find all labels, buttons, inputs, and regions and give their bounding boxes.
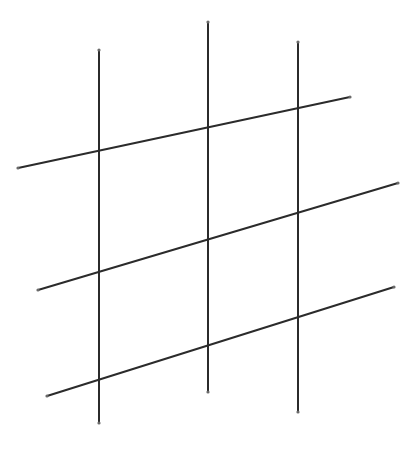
slanted-line-1 bbox=[18, 97, 350, 168]
line-endpoint bbox=[36, 288, 39, 291]
line-endpoint bbox=[45, 394, 48, 397]
line-endpoint bbox=[392, 285, 395, 288]
line-endpoint bbox=[348, 95, 351, 98]
line-grid-diagram bbox=[0, 0, 419, 454]
line-endpoint bbox=[296, 40, 299, 43]
line-endpoint bbox=[97, 421, 100, 424]
line-endpoint bbox=[97, 48, 100, 51]
line-endpoint bbox=[206, 20, 209, 23]
line-endpoint bbox=[16, 166, 19, 169]
line-endpoint bbox=[296, 410, 299, 413]
line-endpoint bbox=[206, 390, 209, 393]
slanted-line-2 bbox=[38, 183, 398, 290]
line-endpoint bbox=[396, 181, 399, 184]
